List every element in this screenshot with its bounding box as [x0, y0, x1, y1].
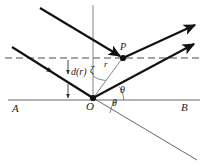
- optics-scattering-figure: A B O P d(r) ζ r θ θ: [0, 0, 207, 168]
- label-P: P: [120, 42, 126, 52]
- label-B: B: [181, 102, 188, 113]
- figure-canvas: [0, 0, 207, 168]
- incident-ray-lower-direction-arrow: [44, 67, 52, 72]
- label-O: O: [86, 101, 94, 112]
- label-theta-lower: θ: [112, 98, 117, 108]
- label-impact-parameter: d(r): [71, 67, 87, 77]
- point-p-marker: [120, 55, 126, 61]
- zeta-angle-arc: [93, 76, 106, 81]
- outgoing-ray-from-o: [93, 44, 194, 98]
- incident-ray-upper: [40, 8, 120, 56]
- outgoing-ray-from-p: [123, 25, 195, 58]
- label-theta-upper: θ: [120, 85, 125, 95]
- label-zeta: ζ: [90, 65, 94, 75]
- label-radius: r: [104, 60, 108, 69]
- label-A: A: [12, 103, 19, 114]
